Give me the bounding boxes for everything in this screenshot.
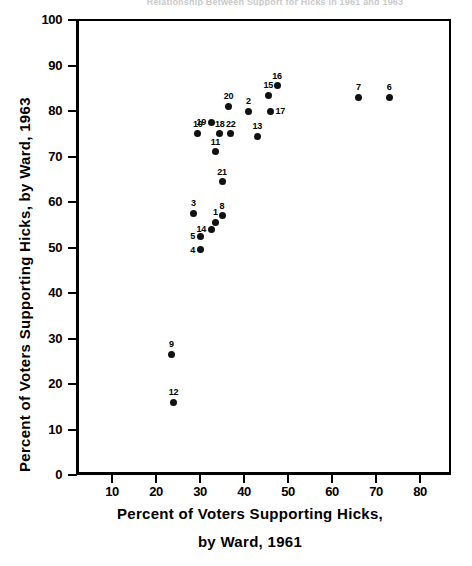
data-point xyxy=(212,219,219,226)
x-tick-mark xyxy=(331,475,333,483)
x-tick-label: 70 xyxy=(361,484,391,499)
y-tick-label: 0 xyxy=(28,467,62,482)
data-point xyxy=(212,148,219,155)
x-tick-label: 30 xyxy=(185,484,215,499)
data-point xyxy=(355,94,362,101)
y-tick-label: 80 xyxy=(28,103,62,118)
data-point xyxy=(190,210,197,217)
x-tick-mark xyxy=(287,475,289,483)
x-tick-mark xyxy=(199,475,201,483)
x-tick-label: 20 xyxy=(141,484,171,499)
data-point xyxy=(208,226,215,233)
data-point xyxy=(216,130,223,137)
data-point xyxy=(265,92,272,99)
data-point-label: 8 xyxy=(220,201,225,211)
y-tick-label: 10 xyxy=(28,422,62,437)
data-point-label: 20 xyxy=(224,91,234,101)
y-tick-label: 60 xyxy=(28,194,62,209)
y-tick-label: 50 xyxy=(28,240,62,255)
data-point xyxy=(254,133,261,140)
x-tick-label: 40 xyxy=(229,484,259,499)
data-point xyxy=(219,212,226,219)
x-tick-label: 50 xyxy=(273,484,303,499)
data-point-label: 17 xyxy=(275,106,285,116)
data-point-label: 16 xyxy=(272,71,282,81)
y-tick-label: 30 xyxy=(28,331,62,346)
x-tick-mark xyxy=(155,475,157,483)
data-point-label: 18 xyxy=(215,119,225,129)
data-point-label: 1 xyxy=(213,207,218,217)
data-point xyxy=(197,246,204,253)
data-point-label: 9 xyxy=(169,339,174,349)
data-point-label: 15 xyxy=(263,80,273,90)
y-tick-label: 40 xyxy=(28,285,62,300)
x-axis-title-line2: by Ward, 1961 xyxy=(40,533,460,550)
data-point-label: 5 xyxy=(190,231,195,241)
y-tick-label: 20 xyxy=(28,376,62,391)
figure-title: Relationship Between Support for Hicks i… xyxy=(90,0,460,6)
y-axis-title: Percent of Voters Supporting Hicks, by W… xyxy=(16,2,33,472)
data-point-label: 22 xyxy=(226,119,236,129)
data-point xyxy=(194,130,201,137)
x-tick-label: 80 xyxy=(405,484,435,499)
data-point xyxy=(168,351,175,358)
data-point xyxy=(219,178,226,185)
data-point-label: 4 xyxy=(190,245,195,255)
data-point xyxy=(208,119,215,126)
data-point xyxy=(227,130,234,137)
data-point xyxy=(170,399,177,406)
x-tick-mark xyxy=(111,475,113,483)
data-point-label: 12 xyxy=(169,387,179,397)
plot-data-area: 12345678910111213141516171819202122 xyxy=(76,19,451,475)
data-point xyxy=(386,94,393,101)
data-point xyxy=(245,108,252,115)
data-point xyxy=(274,82,281,89)
data-point-label: 3 xyxy=(191,198,196,208)
data-point-label: 11 xyxy=(211,137,220,147)
x-tick-label: 10 xyxy=(97,484,127,499)
data-point-label: 19 xyxy=(196,117,206,127)
x-tick-mark xyxy=(243,475,245,483)
data-point-label: 6 xyxy=(387,82,392,92)
data-point-label: 2 xyxy=(246,96,251,106)
y-tick-label: 70 xyxy=(28,149,62,164)
data-point xyxy=(225,103,232,110)
x-tick-mark xyxy=(419,475,421,483)
data-point-label: 7 xyxy=(356,82,361,92)
x-tick-mark xyxy=(375,475,377,483)
data-point-label: 13 xyxy=(252,121,262,131)
data-point-label: 21 xyxy=(217,167,227,177)
scatter-plot-figure: Relationship Between Support for Hicks i… xyxy=(0,0,472,566)
x-axis-title-line1: Percent of Voters Supporting Hicks, xyxy=(40,505,460,522)
y-tick-label: 90 xyxy=(28,58,62,73)
data-point xyxy=(267,108,274,115)
data-point-label: 14 xyxy=(196,224,206,234)
y-tick-label: 100 xyxy=(28,12,62,27)
x-tick-label: 60 xyxy=(317,484,347,499)
